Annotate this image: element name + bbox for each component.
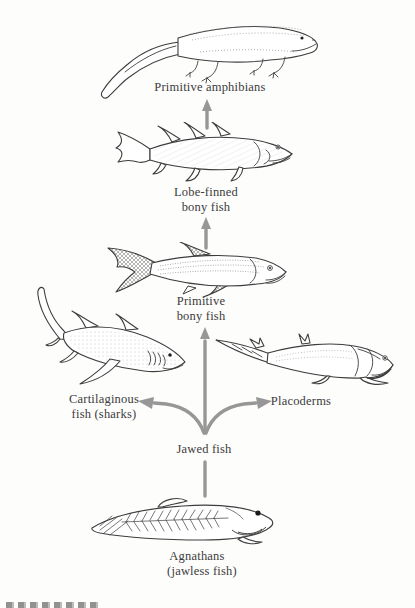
label-cartilaginous-line2: fish (sharks)	[69, 407, 139, 422]
label-agnathans-line1: Agnathans	[169, 549, 224, 563]
lobe-finned-bony-fish-illustration	[108, 122, 303, 184]
arrow-branch-right	[206, 403, 256, 433]
evolution-diagram-figure: Primitive amphibians Lobe-f	[0, 0, 415, 608]
label-agnathans-line2: (jawless fish)	[157, 564, 237, 579]
label-lobe-finned-line1: Lobe-finned	[174, 185, 238, 199]
cartilaginous-shark-illustration	[2, 283, 194, 388]
arrowhead-right	[256, 397, 272, 409]
agnathan-jawless-fish-illustration	[88, 494, 283, 549]
label-lobe-finned-line2: bony fish	[174, 200, 238, 215]
label-primitive-amphibians: Primitive amphibians	[154, 80, 265, 95]
arrowhead-left	[138, 397, 154, 409]
arrow-branch-left	[154, 403, 204, 433]
label-lobe-finned-bony-fish: Lobe-finned bony fish	[174, 185, 238, 214]
label-cartilaginous-fish: Cartilaginous fish (sharks)	[69, 392, 139, 421]
clipped-print-fragment	[6, 602, 102, 608]
arrowhead-up-2	[201, 217, 211, 229]
label-agnathans: Agnathans (jawless fish)	[157, 549, 237, 578]
label-cartilaginous-line1: Cartilaginous	[69, 392, 139, 406]
label-jawed-fish: Jawed fish	[176, 442, 231, 457]
placoderm-illustration	[212, 333, 412, 385]
arrowhead-up-3	[200, 327, 210, 339]
label-placoderms: Placoderms	[271, 394, 331, 409]
